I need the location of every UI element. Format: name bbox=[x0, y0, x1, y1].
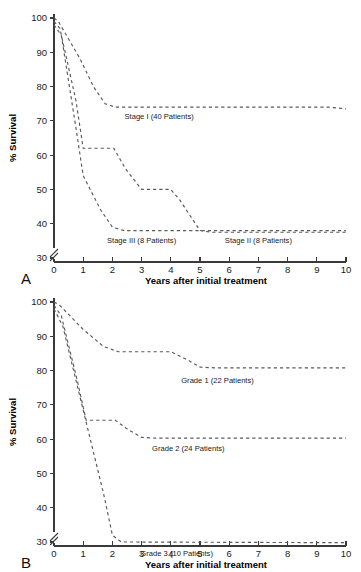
y-tick-label-90: 90 bbox=[36, 331, 47, 342]
y-axis-title: % Survival bbox=[7, 114, 18, 162]
panel-a: 30405060708090100012345678910Stage I (40… bbox=[0, 0, 361, 286]
series-label-grade-3-10-patients: Grade 3 (10 Patients) bbox=[140, 549, 213, 558]
curve-grade-1-22-patients bbox=[54, 302, 346, 368]
y-tick-label-60: 60 bbox=[36, 150, 47, 161]
x-tick-label-6: 6 bbox=[227, 548, 232, 559]
curve-grade-2-24-patients bbox=[54, 305, 346, 438]
y-tick-label-100: 100 bbox=[31, 296, 47, 307]
y-tick-label-80: 80 bbox=[36, 81, 47, 92]
x-tick-label-1: 1 bbox=[81, 548, 86, 559]
y-tick-label-70: 70 bbox=[36, 115, 47, 126]
curve-stage-i-40-patients bbox=[54, 18, 346, 109]
y-tick-label-40: 40 bbox=[36, 218, 47, 229]
x-tick-label-7: 7 bbox=[256, 548, 261, 559]
x-tick-label-4: 4 bbox=[168, 264, 173, 275]
y-axis-break-mark bbox=[50, 533, 58, 541]
curve-grade-3-10-patients bbox=[54, 309, 346, 543]
x-tick-label-0: 0 bbox=[51, 264, 56, 275]
survival-curves-figure: 30405060708090100012345678910Stage I (40… bbox=[0, 0, 361, 572]
series-label-grade-2-24-patients: Grade 2 (24 Patients) bbox=[152, 444, 225, 453]
panel-a-canvas: 30405060708090100012345678910Stage I (40… bbox=[0, 0, 361, 286]
x-tick-label-10: 10 bbox=[341, 264, 352, 275]
y-tick-label-30: 30 bbox=[36, 536, 47, 547]
y-tick-label-30: 30 bbox=[36, 252, 47, 263]
x-tick-label-0: 0 bbox=[51, 548, 56, 559]
y-axis-title: % Survival bbox=[7, 398, 18, 446]
series-label-grade-1-22-patients: Grade 1 (22 Patients) bbox=[181, 376, 254, 385]
x-tick-label-8: 8 bbox=[285, 548, 290, 559]
y-tick-label-80: 80 bbox=[36, 365, 47, 376]
x-tick-label-7: 7 bbox=[256, 264, 261, 275]
curve-stage-iii-8-patients bbox=[54, 25, 346, 231]
y-tick-label-50: 50 bbox=[36, 184, 47, 195]
series-label-stage-i-40-patients: Stage I (40 Patients) bbox=[125, 112, 195, 121]
x-tick-label-8: 8 bbox=[285, 264, 290, 275]
x-tick-label-2: 2 bbox=[110, 264, 115, 275]
y-tick-label-100: 100 bbox=[31, 12, 47, 23]
panel-letter-b: B bbox=[21, 554, 31, 570]
series-label-stage-ii-8-patients: Stage II (8 Patients) bbox=[225, 236, 293, 245]
x-tick-label-10: 10 bbox=[341, 548, 352, 559]
y-tick-label-50: 50 bbox=[36, 468, 47, 479]
y-axis-break-mark bbox=[50, 249, 58, 257]
curve-stage-ii-8-patients bbox=[54, 21, 346, 232]
x-tick-label-9: 9 bbox=[314, 264, 319, 275]
x-tick-label-5: 5 bbox=[197, 264, 202, 275]
x-tick-label-6: 6 bbox=[227, 264, 232, 275]
y-tick-label-40: 40 bbox=[36, 502, 47, 513]
x-tick-label-2: 2 bbox=[110, 548, 115, 559]
y-tick-label-70: 70 bbox=[36, 399, 47, 410]
x-tick-label-3: 3 bbox=[139, 264, 144, 275]
y-tick-label-60: 60 bbox=[36, 434, 47, 445]
panel-b-canvas: 30405060708090100012345678910Grade 1 (22… bbox=[0, 284, 361, 570]
y-tick-label-90: 90 bbox=[36, 47, 47, 58]
series-label-stage-iii-8-patients: Stage III (8 Patients) bbox=[107, 236, 177, 245]
x-tick-label-9: 9 bbox=[314, 548, 319, 559]
x-axis-title: Years after initial treatment bbox=[145, 559, 268, 570]
panel-b: 30405060708090100012345678910Grade 1 (22… bbox=[0, 284, 361, 570]
x-tick-label-1: 1 bbox=[81, 264, 86, 275]
